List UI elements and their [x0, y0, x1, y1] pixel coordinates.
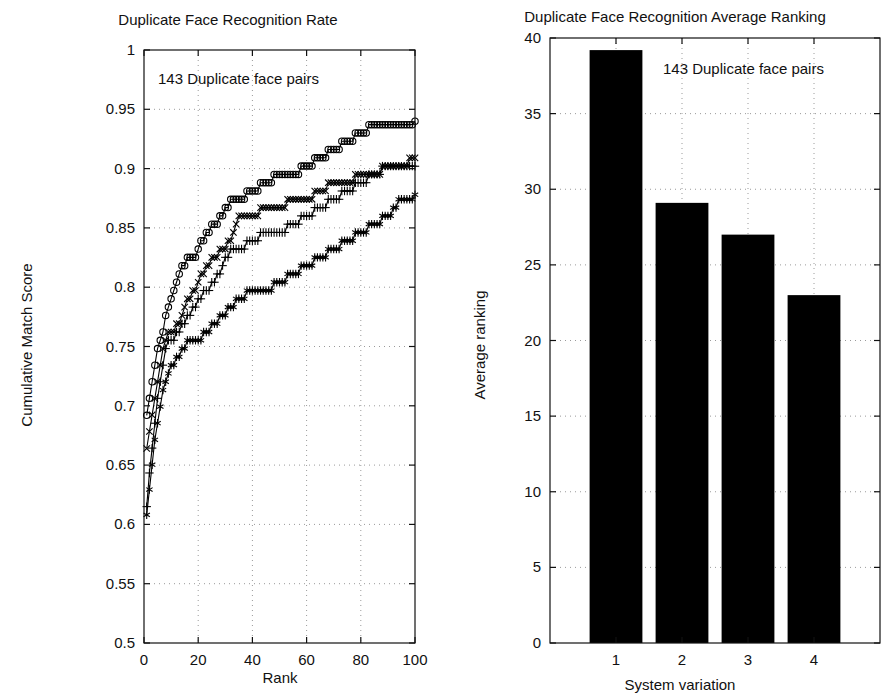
x-tick-label: 60 — [298, 651, 315, 668]
y-tick-label: 0.95 — [106, 100, 135, 117]
left-tick-labels: 0204060801000.50.550.60.650.70.750.80.85… — [106, 41, 428, 668]
bar-4 — [788, 295, 841, 643]
y-tick-label: 0.8 — [114, 278, 135, 295]
y-tick-label: 0.85 — [106, 219, 135, 236]
y-tick-label: 0.55 — [106, 575, 135, 592]
x-tick-label: 4 — [810, 651, 818, 668]
right-chart-panel: Duplicate Face Recognition Average Ranki… — [450, 0, 891, 697]
y-tick-label: 5 — [533, 558, 541, 575]
y-tick-label: 0.65 — [106, 456, 135, 473]
y-tick-label: 0 — [533, 634, 541, 651]
y-tick-label: 25 — [524, 256, 541, 273]
bar-1 — [590, 50, 643, 643]
left-chart-panel: Duplicate Face Recognition Rate 02040608… — [0, 0, 450, 697]
left-y-axis-label: Cumulative Match Score — [18, 263, 35, 426]
series-asterisk-series — [144, 190, 419, 519]
series-plus-series — [143, 162, 420, 511]
y-tick-label: 0.6 — [114, 515, 135, 532]
series-line — [147, 195, 415, 515]
y-tick-label: 0.9 — [114, 160, 135, 177]
bar-3 — [722, 235, 775, 643]
y-tick-label: 30 — [524, 180, 541, 197]
y-tick-label: 20 — [524, 332, 541, 349]
x-tick-label: 40 — [244, 651, 261, 668]
left-x-axis-label: Rank — [262, 669, 298, 686]
right-chart-annotation: 143 Duplicate face pairs — [663, 60, 824, 77]
right-y-axis-label: Average ranking — [471, 291, 488, 400]
x-tick-label: 0 — [140, 651, 148, 668]
average-ranking-chart: Duplicate Face Recognition Average Ranki… — [450, 0, 891, 697]
x-tick-label: 20 — [190, 651, 207, 668]
y-tick-label: 0.7 — [114, 397, 135, 414]
y-tick-label: 40 — [524, 29, 541, 46]
x-tick-label: 2 — [678, 651, 686, 668]
x-tick-label: 3 — [744, 651, 752, 668]
y-tick-label: 15 — [524, 407, 541, 424]
y-tick-label: 1 — [127, 41, 135, 58]
y-tick-label: 35 — [524, 105, 541, 122]
left-series-group — [143, 118, 420, 519]
series-circle-series — [144, 118, 419, 419]
left-chart-annotation: 143 Duplicate face pairs — [158, 70, 319, 87]
right-x-axis-label: System variation — [625, 676, 736, 693]
right-chart-title: Duplicate Face Recognition Average Ranki… — [524, 8, 826, 25]
series-line — [147, 158, 415, 449]
bar-2 — [656, 203, 709, 643]
left-chart-title: Duplicate Face Recognition Rate — [118, 11, 337, 28]
x-tick-label: 100 — [402, 651, 427, 668]
y-tick-label: 0.75 — [106, 338, 135, 355]
series-cross-series — [144, 155, 419, 452]
x-tick-label: 80 — [352, 651, 369, 668]
figure-container: Duplicate Face Recognition Rate 02040608… — [0, 0, 891, 697]
cumulative-match-score-chart: Duplicate Face Recognition Rate 02040608… — [0, 0, 450, 697]
y-tick-label: 0.5 — [114, 634, 135, 651]
y-tick-label: 10 — [524, 483, 541, 500]
x-tick-label: 1 — [612, 651, 620, 668]
right-bars-group — [590, 50, 841, 643]
